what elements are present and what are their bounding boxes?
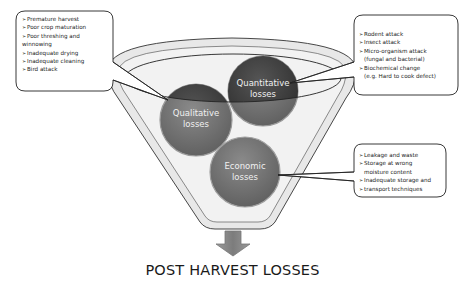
arrow-bullet-icon: ➢ (359, 47, 363, 55)
item-text: Storage at wrong (364, 160, 412, 166)
list-item: ➢Storage at wrongmoisture content (359, 159, 449, 176)
arrow-bullet-icon: ➢ (22, 32, 26, 40)
item-text: Inadequate storage and (364, 177, 431, 183)
quantitative-losses-label: Quantitative losses (226, 78, 300, 100)
item-text: Insect attack (364, 39, 400, 45)
arrow-bullet-icon: ➢ (359, 38, 363, 46)
diagram-title: POST HARVEST LOSSES (0, 262, 465, 278)
list-item: ➢Premature harvest (22, 15, 112, 23)
label-line: losses (210, 172, 280, 183)
label-line: losses (226, 89, 300, 100)
label-line: Quantitative (226, 78, 300, 89)
quantitative-causes-list: ➢Rodent attack ➢Insect attack ➢Micro-org… (359, 30, 459, 80)
list-item: ➢Leakage and waste (359, 151, 449, 159)
item-text: transport techniques (364, 186, 422, 192)
label-line: Qualitative (161, 108, 231, 119)
list-item: ➢Micro-organism attack(fungal and bacter… (359, 47, 459, 64)
item-continuation: winnowing (22, 40, 112, 48)
item-text: Bird attack (27, 66, 57, 72)
list-item: ➢transport techniques (359, 185, 449, 193)
list-item: ➢Insect attack (359, 38, 459, 46)
list-item: ➢Inadequate cleaning (22, 57, 112, 65)
item-text: Biochemical change (364, 65, 420, 71)
arrow-bullet-icon: ➢ (359, 30, 363, 38)
item-text: Rodent attack (364, 31, 403, 37)
item-continuation: (fungal and bacterial) (364, 55, 459, 63)
arrow-bullet-icon: ➢ (22, 57, 26, 65)
list-item: ➢Rodent attack (359, 30, 459, 38)
list-item: ➢Inadequate storage and (359, 176, 449, 184)
label-line: Economic (210, 161, 280, 172)
item-text: Poor crop maturation (27, 24, 86, 30)
item-text: Inadequate drying (27, 50, 78, 56)
qualitative-causes-list: ➢Premature harvest ➢Poor crop maturation… (22, 15, 112, 74)
arrow-bullet-icon: ➢ (22, 65, 26, 73)
list-item: ➢Poor threshing andwinnowing (22, 32, 112, 49)
item-continuation: moisture content (364, 168, 449, 176)
item-text: Premature harvest (27, 16, 79, 22)
label-line: losses (161, 119, 231, 130)
item-text: Inadequate cleaning (27, 58, 84, 64)
arrow-bullet-icon: ➢ (359, 185, 363, 193)
arrow-bullet-icon: ➢ (359, 159, 363, 167)
item-continuation: (e.g. Hard to cook defect) (364, 72, 459, 80)
list-item: ➢Inadequate drying (22, 49, 112, 57)
economic-causes-list: ➢Leakage and waste ➢Storage at wrongmois… (359, 151, 449, 193)
list-item: ➢Poor crop maturation (22, 23, 112, 31)
arrow-bullet-icon: ➢ (359, 151, 363, 159)
arrow-bullet-icon: ➢ (359, 64, 363, 72)
list-item: ➢Bird attack (22, 65, 112, 73)
item-text: Micro-organism attack (364, 48, 427, 54)
item-text: Poor threshing and (27, 33, 80, 39)
list-item: ➢Biochemical change(e.g. Hard to cook de… (359, 64, 459, 81)
qualitative-losses-label: Qualitative losses (161, 108, 231, 130)
economic-losses-label: Economic losses (210, 161, 280, 183)
arrow-bullet-icon: ➢ (22, 49, 26, 57)
down-arrow-icon (216, 231, 250, 256)
arrow-bullet-icon: ➢ (359, 176, 363, 184)
arrow-bullet-icon: ➢ (22, 23, 26, 31)
arrow-bullet-icon: ➢ (22, 15, 26, 23)
item-text: Leakage and waste (364, 152, 418, 158)
